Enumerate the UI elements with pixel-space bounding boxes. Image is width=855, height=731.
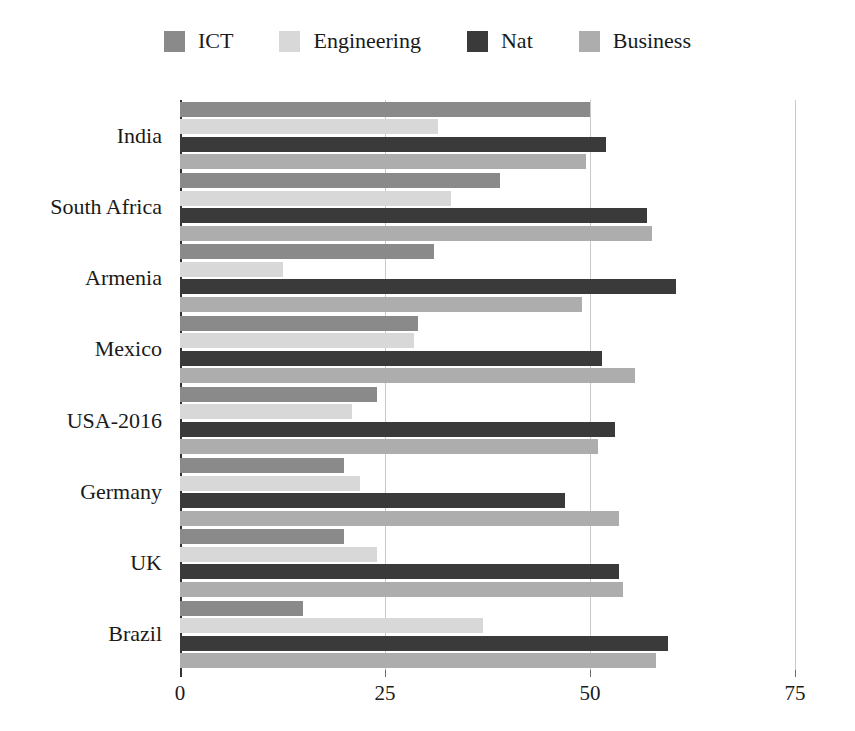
bar-business-south-africa[interactable] [180,226,652,241]
bar-nat-usa-2016[interactable] [180,422,615,437]
y-tick-label: India [117,125,162,147]
bar-group-india: India [180,100,795,171]
bar-nat-india[interactable] [180,137,606,152]
bar-business-uk[interactable] [180,582,623,597]
bar-engineering-armenia[interactable] [180,262,283,277]
plot-area: 0255075IndiaSouth AfricaArmeniaMexicoUSA… [180,100,795,670]
bar-nat-armenia[interactable] [180,279,676,294]
bar-engineering-usa-2016[interactable] [180,404,352,419]
legend-label: Nat [501,30,533,52]
bar-business-armenia[interactable] [180,297,582,312]
bar-business-india[interactable] [180,154,586,169]
bar-group-uk: UK [180,528,795,599]
legend-entry-engineering[interactable]: Engineering [279,30,421,52]
bar-nat-south-africa[interactable] [180,208,647,223]
bar-ict-india[interactable] [180,102,590,117]
bar-group-brazil: Brazil [180,599,795,670]
y-tick-label: UK [130,552,162,574]
bar-engineering-germany[interactable] [180,476,360,491]
x-tick-mark-50 [590,670,591,677]
bar-group-south-africa: South Africa [180,171,795,242]
x-tick-label: 0 [175,683,186,704]
legend-label: Business [613,30,691,52]
bar-business-brazil[interactable] [180,653,656,668]
x-tick-label: 25 [375,683,396,704]
x-tick-label: 50 [580,683,601,704]
bar-ict-germany[interactable] [180,458,344,473]
chart-figure: ICTEngineeringNatBusiness 0255075IndiaSo… [0,0,855,731]
legend-swatch-business-icon [579,31,600,52]
y-tick-label: Mexico [95,338,162,360]
legend-swatch-engineering-icon [279,31,300,52]
bar-ict-uk[interactable] [180,529,344,544]
bar-engineering-india[interactable] [180,119,438,134]
y-tick-label: Germany [80,481,162,503]
legend-entry-business[interactable]: Business [579,30,691,52]
legend-entry-ict[interactable]: ICT [164,30,233,52]
bar-nat-uk[interactable] [180,564,619,579]
bar-ict-south-africa[interactable] [180,173,500,188]
y-tick-label: South Africa [50,196,162,218]
y-tick-label: USA-2016 [67,410,162,432]
bar-group-armenia: Armenia [180,243,795,314]
bar-engineering-south-africa[interactable] [180,191,451,206]
legend-label: Engineering [313,30,421,52]
legend-label: ICT [198,30,233,52]
bar-nat-brazil[interactable] [180,636,668,651]
bar-group-germany: Germany [180,456,795,527]
bar-business-mexico[interactable] [180,368,635,383]
bar-nat-germany[interactable] [180,493,565,508]
x-tick-mark-25 [385,670,386,677]
bar-ict-mexico[interactable] [180,316,418,331]
bar-nat-mexico[interactable] [180,351,602,366]
x-tick-mark-0 [180,670,182,677]
bar-engineering-uk[interactable] [180,547,377,562]
x-tick-label: 75 [785,683,806,704]
y-tick-label: Brazil [108,623,162,645]
gridline-x-75 [795,100,796,670]
legend-entry-nat[interactable]: Nat [467,30,533,52]
bar-ict-usa-2016[interactable] [180,387,377,402]
bar-ict-brazil[interactable] [180,601,303,616]
bar-business-usa-2016[interactable] [180,439,598,454]
y-tick-label: Armenia [85,267,162,289]
bar-engineering-brazil[interactable] [180,618,483,633]
chart-legend: ICTEngineeringNatBusiness [0,30,855,52]
bar-engineering-mexico[interactable] [180,333,414,348]
bar-ict-armenia[interactable] [180,244,434,259]
legend-swatch-ict-icon [164,31,185,52]
bar-group-usa-2016: USA-2016 [180,385,795,456]
legend-swatch-nat-icon [467,31,488,52]
bar-business-germany[interactable] [180,511,619,526]
x-tick-mark-75 [795,670,796,677]
bar-group-mexico: Mexico [180,314,795,385]
